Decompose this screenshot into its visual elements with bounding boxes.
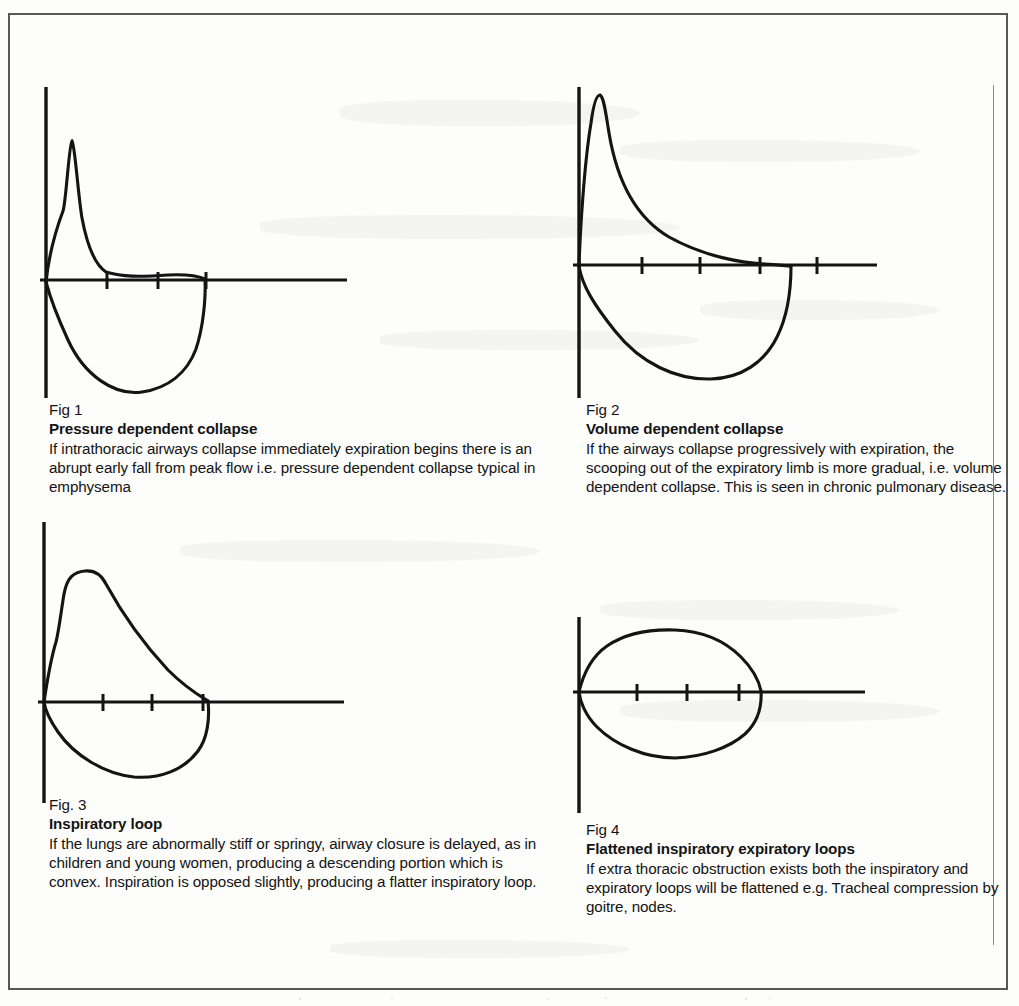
fig2-expiratory-limb — [579, 95, 791, 266]
figure-3-number: Fig. 3 — [49, 795, 549, 814]
inner-vertical-rule — [993, 85, 994, 945]
fig2-inspiratory-limb — [579, 266, 791, 379]
figure-2-body: If the airways collapse progressively wi… — [586, 439, 1006, 497]
figure-1-body: If intrathoracic airways collapse immedi… — [49, 439, 549, 497]
figure-4-caption: Fig 4 Flattened inspiratory expiratory l… — [586, 820, 1006, 916]
figure-3-body: If the lungs are abnormally stiff or spr… — [49, 834, 549, 892]
figure-2-caption: Fig 2 Volume dependent collapse If the a… — [586, 400, 1006, 496]
figure-3-title: Inspiratory loop — [49, 814, 549, 833]
fig4-expiratory-limb — [579, 630, 761, 692]
figure-panel-1 — [30, 85, 360, 400]
fig3-chart — [30, 520, 360, 805]
fig4-inspiratory-limb — [579, 691, 761, 758]
figure-4-number: Fig 4 — [586, 820, 1006, 839]
figure-2-title: Volume dependent collapse — [586, 419, 1006, 438]
scan-edge-noise — [150, 996, 850, 1002]
fig1-chart — [30, 85, 360, 400]
fig3-expiratory-limb — [44, 571, 208, 702]
figure-panel-2 — [565, 85, 895, 400]
figure-1-title: Pressure dependent collapse — [49, 419, 549, 438]
figure-1-number: Fig 1 — [49, 400, 549, 419]
fig4-chart — [565, 615, 895, 815]
fig1-inspiratory-limb — [46, 279, 205, 392]
figure-4-body: If extra thoracic obstruction exists bot… — [586, 859, 1006, 917]
figure-panel-4 — [565, 615, 895, 815]
figure-panel-3 — [30, 520, 360, 805]
fig1-expiratory-limb — [46, 141, 205, 282]
figure-2-number: Fig 2 — [586, 400, 1006, 419]
figure-3-caption: Fig. 3 Inspiratory loop If the lungs are… — [49, 795, 549, 891]
fig3-inspiratory-limb — [44, 701, 209, 777]
fig2-chart — [565, 85, 895, 400]
scanned-page: Fig 1 Pressure dependent collapse If int… — [0, 0, 1019, 1006]
figure-1-caption: Fig 1 Pressure dependent collapse If int… — [49, 400, 549, 496]
figure-4-title: Flattened inspiratory expiratory loops — [586, 839, 1006, 858]
